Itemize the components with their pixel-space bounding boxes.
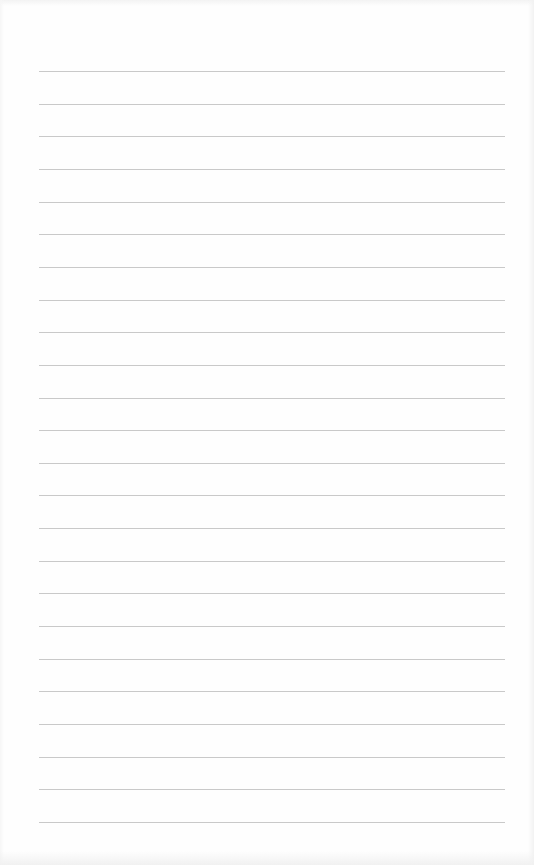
ruled-line [39,561,505,562]
ruled-line [39,463,505,464]
ruled-line [39,724,505,725]
ruled-line [39,757,505,758]
ruled-line [39,332,505,333]
ruled-lines [0,0,534,865]
ruled-line [39,365,505,366]
ruled-line [39,789,505,790]
ruled-line [39,104,505,105]
ruled-line [39,528,505,529]
ruled-line [39,593,505,594]
ruled-line [39,136,505,137]
ruled-line [39,234,505,235]
ruled-line [39,430,505,431]
ruled-line [39,300,505,301]
ruled-line [39,398,505,399]
ruled-line [39,71,505,72]
ruled-line [39,169,505,170]
ruled-line [39,202,505,203]
lined-paper-page [0,0,534,865]
ruled-line [39,691,505,692]
ruled-line [39,822,505,823]
ruled-line [39,495,505,496]
ruled-line [39,659,505,660]
ruled-line [39,267,505,268]
ruled-line [39,626,505,627]
